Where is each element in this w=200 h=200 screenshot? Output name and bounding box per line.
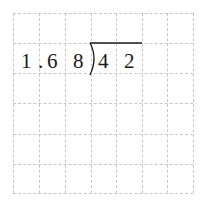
dividend-digit: 2 (124, 51, 135, 72)
dividend-digit: 4 (98, 51, 109, 72)
long-division-bracket-icon (0, 0, 200, 200)
